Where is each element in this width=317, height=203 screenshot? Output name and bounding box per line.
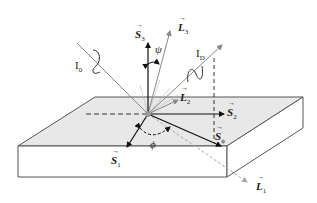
label-s1: S1 xyxy=(111,155,121,169)
label-sphi-base: S xyxy=(215,131,221,142)
label-s2-sub: 2 xyxy=(233,113,237,121)
label-i0-sub: 0 xyxy=(79,66,83,74)
psi-angle-arc xyxy=(148,62,159,64)
scattering-point xyxy=(145,111,151,117)
scattering-geometry-diagram xyxy=(0,0,317,203)
label-s2-base: S xyxy=(227,107,233,118)
label-s2: S2 xyxy=(227,107,237,121)
label-l3-sub: 3 xyxy=(185,28,189,36)
label-s1-sub: 1 xyxy=(117,161,121,169)
label-sphi-sub: ϕ xyxy=(221,137,225,145)
label-l3-base: L xyxy=(178,22,185,33)
slab xyxy=(18,97,303,177)
label-l1-base: L xyxy=(256,181,263,192)
slab-front-face xyxy=(18,146,227,177)
label-phi: ϕ xyxy=(150,139,156,150)
detected-wave-icon xyxy=(188,66,203,82)
label-s3-base: S xyxy=(135,29,141,40)
label-id-sub: D xyxy=(200,54,205,62)
label-l1: L1 xyxy=(256,181,266,195)
label-l2-sub: 2 xyxy=(187,98,191,106)
label-l2: L2 xyxy=(180,92,190,106)
label-sphi: Sϕ xyxy=(215,131,225,145)
label-s1-base: S xyxy=(111,155,117,166)
label-s3-sub: 3 xyxy=(141,35,145,43)
label-id: ID xyxy=(196,48,205,62)
label-psi: ψ xyxy=(155,44,162,55)
label-i0: I0 xyxy=(75,60,82,74)
label-l3: L3 xyxy=(178,22,188,36)
label-s3: S3 xyxy=(135,29,145,43)
label-l2-base: L xyxy=(180,92,187,103)
incident-wave-icon xyxy=(93,50,100,73)
label-l1-sub: 1 xyxy=(263,187,267,195)
